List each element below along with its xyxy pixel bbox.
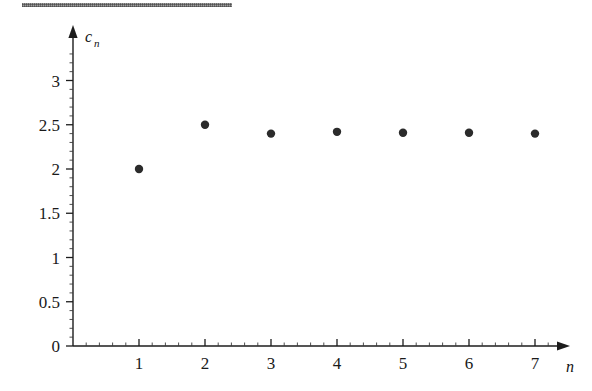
x-axis-major-ticks [139, 339, 535, 346]
data-point [465, 129, 473, 137]
data-point [267, 129, 275, 137]
y-tick-label: 2 [52, 160, 61, 179]
scatter-plot: 00.511.522.53 1234567 c n n [0, 0, 592, 391]
y-axis [68, 25, 77, 346]
x-axis-title: n [566, 358, 574, 375]
data-point [201, 121, 209, 129]
y-tick-label: 2.5 [39, 116, 60, 135]
y-axis-major-ticks [66, 81, 73, 347]
x-axis-tick-labels: 1234567 [135, 354, 540, 373]
data-point [135, 165, 143, 173]
y-tick-label: 3 [52, 72, 61, 91]
y-axis-title-subscript: n [94, 37, 100, 49]
figure-canvas: 00.511.522.53 1234567 c n n [0, 0, 592, 391]
data-point [399, 129, 407, 137]
y-tick-label: 1.5 [39, 204, 60, 223]
y-tick-label: 1 [52, 249, 61, 268]
y-axis-title-base: c [85, 28, 92, 45]
x-tick-label: 5 [399, 354, 408, 373]
y-axis-title: c n [85, 28, 100, 49]
y-axis-arrowhead [68, 25, 77, 38]
x-axis-arrowhead [557, 341, 570, 350]
x-tick-label: 1 [135, 354, 144, 373]
plot-svg: 00.511.522.53 1234567 c n n [0, 0, 592, 391]
data-point-group [135, 121, 539, 174]
x-tick-label: 6 [465, 354, 474, 373]
x-tick-label: 4 [333, 354, 342, 373]
y-tick-label: 0.5 [39, 293, 60, 312]
y-axis-tick-labels: 00.511.522.53 [39, 72, 60, 357]
data-point [333, 128, 341, 136]
data-point [531, 129, 539, 137]
y-tick-label: 0 [52, 337, 61, 356]
x-tick-label: 3 [267, 354, 276, 373]
x-tick-label: 7 [531, 354, 540, 373]
x-tick-label: 2 [201, 354, 210, 373]
